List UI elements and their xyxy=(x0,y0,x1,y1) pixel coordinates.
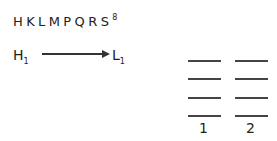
title-superscript: 8 xyxy=(112,13,117,22)
level-line xyxy=(235,60,268,62)
level-line xyxy=(188,115,221,117)
level-line xyxy=(188,78,221,80)
column-label-2: 2 xyxy=(246,120,255,136)
to-state-label: L xyxy=(112,47,120,63)
level-line xyxy=(188,97,221,99)
to-state: L1 xyxy=(112,47,125,66)
level-line xyxy=(235,115,268,117)
from-state-subscript: 1 xyxy=(24,57,29,66)
title-text: HKLMPQRS xyxy=(13,14,112,29)
diagram-title: HKLMPQRS8 xyxy=(13,14,117,29)
level-line xyxy=(235,78,268,80)
arrowhead-icon xyxy=(102,50,110,58)
level-line xyxy=(235,97,268,99)
level-line xyxy=(188,60,221,62)
to-state-subscript: 1 xyxy=(120,57,125,66)
right-arrow-icon xyxy=(42,53,104,55)
from-state-label: H xyxy=(13,47,24,63)
column-label-1: 1 xyxy=(199,120,208,136)
from-state: H1 xyxy=(13,47,29,66)
